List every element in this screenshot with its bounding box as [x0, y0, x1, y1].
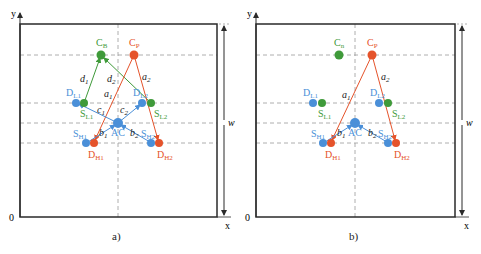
- label-cn: Cn: [334, 37, 345, 50]
- node-cp: [130, 51, 139, 60]
- label-dh1: DH1: [88, 149, 104, 162]
- node-sl1: [80, 99, 88, 107]
- node-sl2: [384, 99, 392, 107]
- label-sh1: SH1: [73, 128, 88, 141]
- label-a1: a1: [104, 88, 113, 101]
- label-b2: b2: [130, 127, 139, 140]
- node-dl2: [138, 99, 146, 107]
- label-d2: d2: [107, 73, 116, 86]
- node-sl2: [147, 99, 155, 107]
- node-dl1: [309, 99, 317, 107]
- label-d1: d1: [80, 73, 89, 86]
- node-dh1: [327, 139, 335, 147]
- x-axis-label: x: [225, 220, 230, 231]
- label-a2: a2: [142, 71, 151, 84]
- y-axis-label: y: [247, 8, 252, 19]
- label-dh1: DH1: [325, 149, 341, 162]
- caption-a: a): [112, 230, 121, 243]
- label-c2: c2: [120, 104, 128, 117]
- node-dh2: [392, 139, 400, 147]
- label-dh2: DH2: [394, 149, 410, 162]
- label-sh1: SH1: [311, 128, 326, 141]
- label-dl2: DL2: [370, 87, 386, 100]
- label-b1: b1: [99, 127, 108, 140]
- width-dimension: w: [457, 24, 473, 215]
- x-axis-label: x: [464, 220, 469, 231]
- label-a1: a1: [342, 89, 351, 102]
- label-a2: a2: [381, 71, 390, 84]
- origin-label: 0: [9, 212, 14, 223]
- y-axis-label: y: [11, 8, 16, 19]
- label-ac: AC: [348, 127, 362, 138]
- node-dl2: [375, 99, 383, 107]
- label-dl2: DL2: [133, 87, 149, 100]
- label-sl2: SL2: [154, 108, 168, 121]
- origin-label: 0: [245, 212, 250, 223]
- node-cn: [335, 51, 344, 60]
- label-sl1: SL1: [318, 108, 332, 121]
- svg-text:w: w: [228, 117, 235, 128]
- node-cb: [97, 51, 106, 60]
- label-cp: CP: [129, 37, 140, 50]
- label-dh2: DH2: [157, 149, 173, 162]
- node-sl1: [318, 99, 326, 107]
- panel-b: y 0 x w a2 a1 b1 b2: [245, 8, 473, 243]
- width-dimension: w: [219, 24, 235, 215]
- caption-b: b): [349, 230, 359, 243]
- label-b1: b1: [337, 127, 346, 140]
- diagram-canvas: y 0 x w: [0, 0, 481, 254]
- node-dh2: [155, 139, 163, 147]
- label-c1: c1: [97, 104, 105, 117]
- label-cp: CP: [367, 37, 378, 50]
- label-sh2: SH2: [378, 128, 393, 141]
- node-cp: [368, 51, 377, 60]
- panel-a: y 0 x w: [9, 8, 235, 243]
- label-ac: AC: [111, 127, 125, 138]
- label-dl1: DL1: [66, 87, 82, 100]
- label-sl2: SL2: [392, 108, 406, 121]
- label-sh2: SH2: [141, 128, 156, 141]
- node-dl1: [72, 99, 80, 107]
- label-cb: CB: [96, 37, 108, 50]
- label-b2: b2: [368, 127, 377, 140]
- svg-text:w: w: [466, 117, 473, 128]
- node-dh1: [90, 139, 98, 147]
- label-dl1: DL1: [303, 87, 319, 100]
